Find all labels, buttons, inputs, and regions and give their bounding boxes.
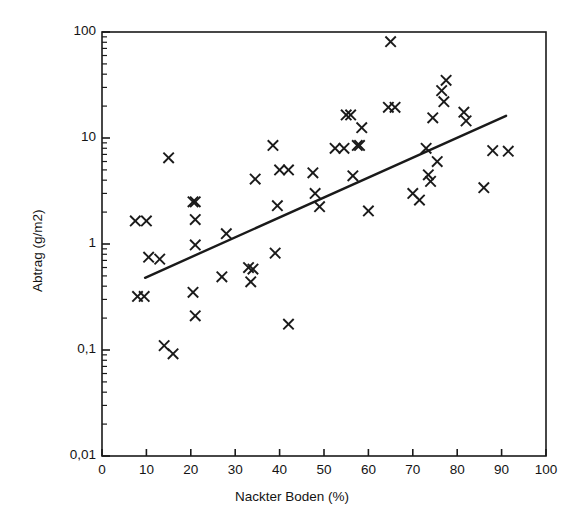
data-point-marker — [479, 182, 489, 192]
data-point-marker — [385, 37, 395, 47]
x-tick-label: 70 — [393, 462, 433, 477]
x-tick-label: 60 — [348, 462, 388, 477]
data-point-marker — [163, 153, 173, 163]
data-point-marker — [428, 113, 438, 123]
plot-frame — [102, 32, 546, 456]
chart-figure: Abtrag (g/m2) Nackter Boden (%) 0,010,11… — [0, 0, 584, 524]
data-point-marker — [488, 145, 498, 155]
x-tick-label: 90 — [482, 462, 522, 477]
data-point-marker — [188, 197, 198, 207]
data-point-marker — [503, 146, 513, 156]
data-point-marker — [270, 248, 280, 258]
data-point-marker — [390, 102, 400, 112]
data-point-marker — [363, 206, 373, 216]
data-point-marker — [354, 140, 364, 150]
data-point-marker — [221, 229, 231, 239]
y-axis-title: Abtrag (g/m2) — [30, 209, 45, 292]
data-point-marker — [155, 254, 165, 264]
data-point-marker — [348, 171, 358, 181]
data-point-marker — [439, 97, 449, 107]
data-point-marker — [436, 85, 446, 95]
x-axis-title: Nackter Boden (%) — [0, 489, 584, 504]
data-point-marker — [139, 291, 149, 301]
data-point-marker — [308, 168, 318, 178]
y-tick-label: 1 — [40, 235, 96, 250]
x-tick-label: 30 — [215, 462, 255, 477]
data-point-marker — [190, 197, 200, 207]
data-point-marker — [141, 216, 151, 226]
x-tick-label: 100 — [526, 462, 566, 477]
x-axis-ticks — [102, 449, 546, 456]
data-point-marker — [250, 174, 260, 184]
x-tick-label: 80 — [437, 462, 477, 477]
data-point-marker — [268, 140, 278, 150]
y-tick-label: 0,1 — [40, 341, 96, 356]
y-tick-label: 0,01 — [40, 447, 96, 462]
data-point-marker — [339, 143, 349, 153]
data-point-marker — [283, 165, 293, 175]
data-point-marker — [246, 277, 256, 287]
y-axis-ticks — [102, 32, 110, 456]
data-point-marker — [330, 143, 340, 153]
data-point-marker — [357, 123, 367, 133]
data-point-marker — [143, 252, 153, 262]
x-tick-label: 10 — [126, 462, 166, 477]
data-point-marker — [188, 287, 198, 297]
data-point-marker — [272, 200, 282, 210]
data-point-marker — [432, 156, 442, 166]
data-point-marker — [190, 214, 200, 224]
x-tick-label: 20 — [171, 462, 211, 477]
scatter-plot-canvas — [0, 0, 584, 524]
data-point-marker — [414, 195, 424, 205]
data-point-marker — [217, 272, 227, 282]
x-tick-label: 0 — [82, 462, 122, 477]
data-point-marker — [441, 75, 451, 85]
data-point-marker — [190, 240, 200, 250]
data-point-marker — [168, 349, 178, 359]
data-point-marker — [130, 216, 140, 226]
x-tick-label: 50 — [304, 462, 344, 477]
data-point-marker — [190, 311, 200, 321]
y-tick-label: 100 — [40, 23, 96, 38]
x-tick-label: 40 — [260, 462, 300, 477]
data-point-marker — [283, 319, 293, 329]
data-point-marker — [274, 165, 284, 175]
data-point-marker — [310, 188, 320, 198]
data-point-marker — [352, 140, 362, 150]
y-tick-label: 10 — [40, 129, 96, 144]
data-point-marker — [459, 107, 469, 117]
data-point-marker — [314, 201, 324, 211]
data-point-marker — [461, 116, 471, 126]
